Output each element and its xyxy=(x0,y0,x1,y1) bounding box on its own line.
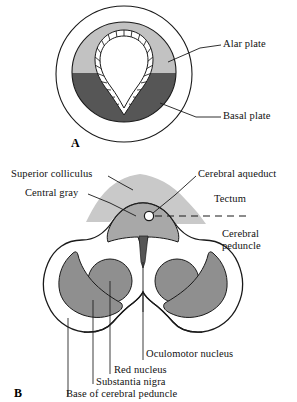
panel-b-graphic xyxy=(44,174,251,396)
figure-canvas xyxy=(0,0,297,402)
label-oculomotor-nucleus: Oculomotor nucleus xyxy=(146,348,233,359)
panel-letter-a: A xyxy=(71,136,80,151)
label-central-gray: Central gray xyxy=(25,187,78,198)
label-tectum: Tectum xyxy=(214,193,246,204)
cerebral-aqueduct-lumen xyxy=(144,211,153,220)
label-cerebral-peduncle-line-2: peduncle xyxy=(222,240,261,251)
label-alar-plate: Alar plate xyxy=(223,38,266,49)
label-base-of-cerebral-peduncle: Base of cerebral peduncle xyxy=(66,388,177,399)
panel-a-graphic xyxy=(56,6,221,142)
label-basal-plate: Basal plate xyxy=(223,110,270,121)
label-red-nucleus: Red nucleus xyxy=(114,364,167,375)
panel-letter-b: B xyxy=(14,386,22,401)
label-cerebral-peduncle-line-1: Cerebral xyxy=(222,228,259,239)
label-cerebral-aqueduct: Cerebral aqueduct xyxy=(198,168,276,179)
label-substantia-nigra: Substantia nigra xyxy=(96,376,166,387)
figure-root: Alar plate Basal plate A Superior collic… xyxy=(0,0,297,402)
label-superior-colliculus: Superior colliculus xyxy=(11,168,93,179)
